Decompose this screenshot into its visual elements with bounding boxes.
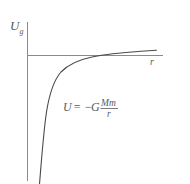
equation-denominator: r — [107, 109, 111, 119]
gravitational-potential-energy-figure: U g r U = − G Mm r — [0, 0, 190, 184]
equation-lhs: U — [63, 100, 73, 114]
equation-constant-G: G — [91, 100, 100, 114]
potential-energy-curve — [40, 50, 157, 184]
x-axis-label: r — [150, 56, 154, 67]
equation-annotation: U = − G Mm r — [63, 98, 118, 119]
equation-equals: = — [73, 100, 81, 114]
equation-numerator: Mm — [100, 98, 116, 108]
chart-canvas: U g r U = − G Mm r — [0, 0, 190, 184]
y-axis-label-subscript: g — [20, 27, 24, 36]
